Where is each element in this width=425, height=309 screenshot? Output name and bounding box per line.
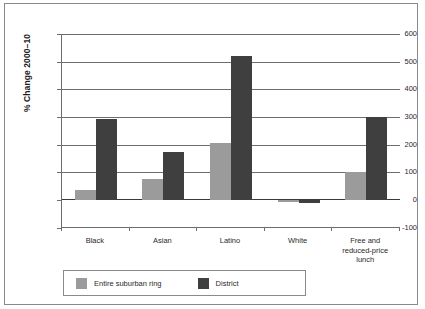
x-tick-mark-1 [129,227,130,231]
x-axis-line [61,227,399,228]
bar-asian-suburban-ring [142,179,163,200]
x-label-line: lunch [356,255,374,264]
bar-white-district [299,200,320,203]
gridline-600 [62,34,400,35]
legend-item-entire-suburban-ring: Entire suburban ring [76,278,162,289]
bar-free-and-reduced-price-lunch-suburban-ring [345,172,366,200]
legend-label-suburban-ring: Entire suburban ring [94,279,162,288]
chart-legend: Entire suburban ring District [63,270,306,296]
bar-latino-suburban-ring [210,143,231,200]
x-tick-mark-0 [61,227,62,231]
x-label-line: Free and [350,236,380,245]
x-label-line: Asian [153,236,172,245]
legend-swatch-suburban-ring [76,278,87,289]
bar-white-suburban-ring [278,200,299,202]
bar-black-suburban-ring [75,190,96,200]
chart-page: % Change 2000–10 -1000100200300400500600… [0,0,425,309]
x-label-line: reduced-price [342,246,388,255]
legend-label-district: District [216,279,239,288]
below-zero-region [61,200,399,228]
x-label-line: White [288,236,307,245]
y-axis-label: % Change 2000–10 [22,13,32,133]
plot-area [61,34,399,200]
bar-asian-district [163,152,184,200]
bar-free-and-reduced-price-lunch-district [366,117,387,200]
x-label-line: Black [86,236,104,245]
x-tick-mark-3 [264,227,265,231]
bar-black-district [96,119,117,200]
figure-frame: % Change 2000–10 -1000100200300400500600… [4,3,418,305]
legend-swatch-district [198,278,209,289]
x-tick-mark-2 [196,227,197,231]
x-tick-mark-end [399,227,400,231]
x-axis-label-free-and-reduced-price-lunch: Free andreduced-pricelunch [317,236,413,265]
legend-item-district: District [198,278,239,289]
x-tick-mark-4 [331,227,332,231]
bar-latino-district [231,56,252,200]
x-label-line: Latino [220,236,240,245]
